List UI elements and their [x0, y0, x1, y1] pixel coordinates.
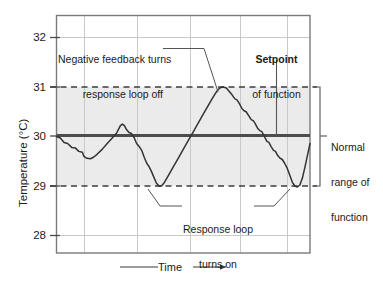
- response-loop-leader-right: [254, 189, 290, 206]
- y-tick-label-32: 32: [24, 31, 46, 44]
- annotation-normal-range-line1: Normal: [331, 142, 383, 154]
- annotation-negative-feedback-line2: response loop off: [58, 89, 163, 101]
- y-tick-label-31: 31: [24, 81, 46, 94]
- annotation-normal-range-line2: range of: [331, 177, 383, 189]
- annotation-negative-feedback: Negative feedback turns response loop of…: [58, 30, 163, 124]
- annotation-setpoint: Setpoint of function: [240, 30, 313, 124]
- annotation-negative-feedback-line1: Negative feedback turns: [58, 54, 163, 66]
- figure-root: 32 31 30 29 28 Temperature (°C) Negative…: [0, 0, 383, 281]
- annotation-setpoint-subtitle: of function: [240, 89, 313, 101]
- response-loop-leader-left: [148, 189, 182, 206]
- annotation-normal-range-line3: function: [331, 212, 383, 224]
- annotation-normal-range: Normal range of function: [331, 118, 383, 247]
- y-axis-title: Temperature (°C): [17, 119, 30, 207]
- y-tick-label-28: 28: [24, 229, 46, 242]
- normal-range-bracket: [313, 87, 320, 186]
- annotation-setpoint-title: Setpoint: [240, 54, 313, 66]
- annotation-response-loop-line1: Response loop: [182, 224, 254, 236]
- x-axis-title: Time: [158, 261, 194, 273]
